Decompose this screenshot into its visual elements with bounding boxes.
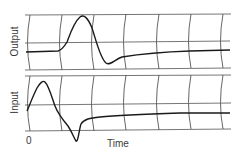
input-axis-label: Input [9, 83, 20, 123]
output-trace [26, 16, 230, 64]
time-origin-label: 0 [26, 135, 32, 146]
time-axis-label: Time [107, 138, 129, 149]
output-axis-label: Output [9, 22, 20, 62]
input-trace [27, 81, 230, 141]
oscilloscope-diagram [0, 0, 242, 156]
